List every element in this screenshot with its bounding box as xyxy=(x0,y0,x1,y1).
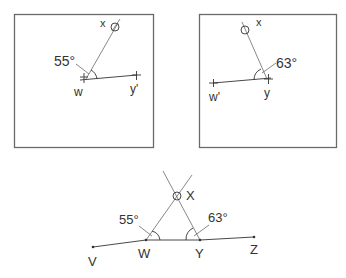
sight-line-w xyxy=(146,175,192,240)
sight-line-w-x xyxy=(86,23,118,79)
panel-left: 55° x w y' xyxy=(15,15,154,148)
label-y: Y xyxy=(195,246,204,261)
label-v: V xyxy=(88,254,97,269)
angle-label-55: 55° xyxy=(119,212,139,227)
baseline-v-z xyxy=(93,237,254,247)
sight-line-y-x xyxy=(242,22,267,79)
label-x: x xyxy=(256,16,262,28)
angle-leader-55 xyxy=(76,64,89,74)
label-y: y xyxy=(264,86,270,100)
combined-figure: 55° 63° X W Y V Z xyxy=(88,171,258,269)
baseline-w-y xyxy=(213,78,271,83)
point-z xyxy=(253,236,256,239)
angle-leader-63 xyxy=(194,225,209,236)
baseline-w-y xyxy=(80,75,137,80)
label-z: Z xyxy=(250,242,258,257)
label-x: X xyxy=(186,188,195,203)
panel-right-frame xyxy=(200,15,337,148)
sight-line-y xyxy=(163,171,200,240)
label-y-prime: y' xyxy=(130,82,138,96)
point-y xyxy=(199,239,202,242)
angle-arc-55 xyxy=(152,231,160,240)
point-v xyxy=(92,246,95,249)
angle-arc-63 xyxy=(254,69,261,80)
angle-arc-63 xyxy=(186,228,193,240)
angle-leader-63 xyxy=(262,63,276,73)
panel-right: 63° x y w' xyxy=(200,15,337,148)
angle-label-63: 63° xyxy=(208,210,228,225)
label-w: W xyxy=(138,246,151,261)
label-w: w xyxy=(73,85,83,99)
label-w-prime: w' xyxy=(208,90,220,104)
point-w xyxy=(145,239,148,242)
label-x: x xyxy=(100,17,106,29)
angle-leader-55 xyxy=(139,226,152,236)
target-circle-x xyxy=(241,26,249,34)
angle-label-63: 63° xyxy=(276,55,297,71)
angle-label-55: 55° xyxy=(54,53,75,69)
station-mark-w xyxy=(209,79,218,87)
triangulation-diagram: 55° x w y' 63° x y w' xyxy=(0,0,346,278)
angle-arc-55 xyxy=(91,70,97,79)
